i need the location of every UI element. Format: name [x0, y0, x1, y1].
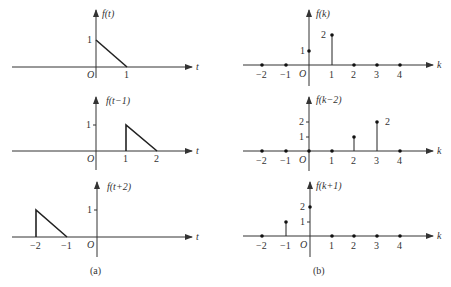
- sample-kneg1: [284, 220, 288, 224]
- x-tick-neg1: −1: [280, 240, 291, 251]
- x-tick-3: 3: [374, 69, 379, 80]
- y-tick-2: 2: [321, 29, 326, 40]
- plot-title: f(k+1): [316, 180, 342, 192]
- y-tick-1: 1: [300, 216, 305, 227]
- plot-b3: f(k+1) 1 2 O −2 −1 1 2 3 4 k: [243, 180, 442, 257]
- plot-b2: f(k−2) 1 2 2 O −2 −1 1 2 3 4 k: [243, 94, 442, 171]
- x-tick-4: 4: [397, 240, 402, 251]
- caption-a: (a): [90, 265, 101, 277]
- x-tick-1: 1: [123, 153, 128, 164]
- x-tick-3: 3: [374, 240, 379, 251]
- y-tick-2: 2: [300, 201, 305, 212]
- origin-label: O: [300, 239, 307, 250]
- x-tick-1: 1: [329, 155, 334, 166]
- sample-k1: [330, 33, 334, 37]
- y-tick-1: 1: [87, 34, 92, 45]
- plot-a3: f(t+2) 1 O −2 −1 t: [12, 181, 199, 257]
- x-tick-neg2: −2: [256, 155, 267, 166]
- plot-a1: f(t) 1 O 1 t: [12, 8, 199, 80]
- plot-title: f(t+2): [107, 181, 132, 193]
- signal-figure: f(t) 1 O 1 t f(t−1) 1 O 1 2 t f(t+2) 1 O…: [0, 0, 451, 287]
- sample-k2: [352, 135, 356, 139]
- sample-k0: [307, 49, 311, 53]
- origin-label: O: [87, 153, 94, 164]
- origin-label: O: [299, 68, 306, 79]
- plot-title: f(k−2): [316, 94, 342, 106]
- x-tick-4: 4: [397, 155, 402, 166]
- plot-a2: f(t−1) 1 O 1 2 t: [12, 95, 199, 170]
- plot-b1: f(k) 1 2 O −2 −1 1 2 3 4 k: [243, 8, 442, 86]
- x-tick-2: 2: [351, 240, 356, 251]
- caption-b: (b): [313, 265, 325, 277]
- axis-var: k: [437, 145, 442, 156]
- y-tick-1: 1: [87, 204, 92, 215]
- sample-k3: [375, 120, 379, 124]
- axis-var: t: [196, 61, 199, 72]
- y-tick-2: 2: [299, 116, 304, 127]
- x-tick-neg1: −1: [280, 155, 291, 166]
- plot-title: f(t): [102, 8, 115, 20]
- y-tick-1: 1: [86, 119, 91, 130]
- axis-var: t: [196, 145, 199, 156]
- signal-triangle: [126, 125, 157, 151]
- y-tick-1: 1: [299, 131, 304, 142]
- signal-triangle: [36, 210, 67, 237]
- x-tick-1: 1: [329, 240, 334, 251]
- x-tick-2: 2: [351, 155, 356, 166]
- x-tick-2: 2: [351, 69, 356, 80]
- x-tick-1: 1: [329, 69, 334, 80]
- x-tick-neg2: −2: [30, 240, 41, 251]
- y-tick-1: 1: [300, 45, 305, 56]
- x-tick-neg1: −1: [280, 69, 291, 80]
- x-tick-3: 3: [374, 155, 379, 166]
- plot-title: f(k): [316, 8, 331, 20]
- x-tick-neg1: −1: [61, 240, 72, 251]
- axis-var: t: [196, 231, 199, 242]
- x-tick-4: 4: [397, 69, 402, 80]
- x-tick-1: 1: [124, 69, 129, 80]
- value-annotation: 2: [385, 116, 390, 127]
- x-tick-2: 2: [154, 153, 159, 164]
- plot-title: f(t−1): [106, 95, 131, 107]
- signal-triangle: [96, 40, 127, 67]
- origin-label: O: [299, 154, 306, 165]
- axis-var: k: [437, 230, 442, 241]
- x-tick-neg2: −2: [256, 69, 267, 80]
- x-tick-neg2: −2: [256, 240, 267, 251]
- origin-label: O: [87, 69, 94, 80]
- sample-k0: [308, 205, 312, 209]
- axis-var: k: [437, 59, 442, 70]
- origin-label: O: [87, 239, 94, 250]
